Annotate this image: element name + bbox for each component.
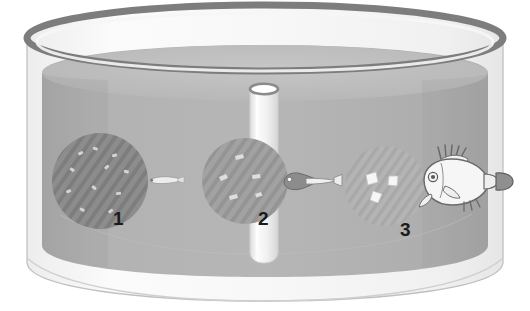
tank-diagram — [0, 0, 530, 311]
prey-patch-1 — [52, 133, 148, 229]
prey-patch-2 — [202, 138, 288, 224]
prey-patch-3 — [345, 146, 425, 226]
standpipe-rim — [250, 84, 278, 94]
stage-number-1: 1 — [113, 209, 124, 228]
stage-number-2: 2 — [258, 209, 269, 228]
stage-number-3: 3 — [400, 220, 411, 239]
figure-canvas: 1 2 3 — [0, 0, 530, 311]
